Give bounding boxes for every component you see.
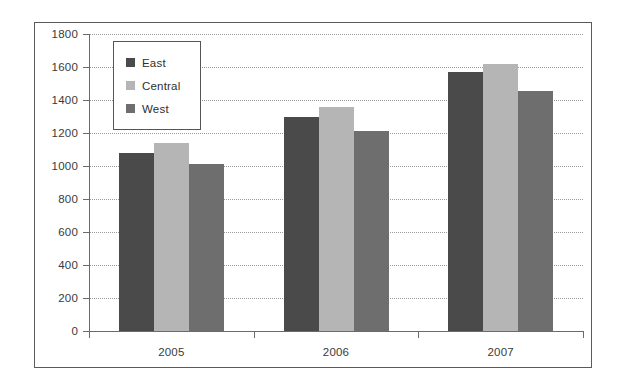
x-axis-label-2006: 2006 [276,346,396,358]
bar-east-2006[interactable] [284,117,319,332]
x-axis-tick [583,331,584,338]
bar-group-2007 [448,34,553,331]
y-axis-tick-label: 1800 [32,28,78,40]
legend-item-west[interactable]: West [126,97,200,120]
legend-item-central[interactable]: Central [126,74,200,97]
y-axis-tick-label: 600 [32,226,78,238]
x-axis-tick [418,331,419,338]
gridline [89,331,583,332]
bar-central-2006[interactable] [319,107,354,331]
legend-item-east[interactable]: East [126,51,200,74]
y-axis-tick-label: 200 [32,292,78,304]
y-axis-tick-label: 800 [32,193,78,205]
bar-east-2005[interactable] [119,153,154,331]
x-axis-tick [254,331,255,338]
bar-central-2007[interactable] [483,64,518,331]
bar-group-2006 [284,34,389,331]
y-axis-tick-label: 1000 [32,160,78,172]
x-axis-label-2005: 2005 [111,346,231,358]
legend-label-central: Central [142,80,180,92]
y-axis-tick-label: 1400 [32,94,78,106]
legend-swatch-west-icon [126,104,135,113]
bar-west-2005[interactable] [189,164,224,331]
bar-west-2007[interactable] [518,91,553,331]
x-axis-tick [89,331,90,338]
bar-central-2005[interactable] [154,143,189,331]
legend-swatch-east-icon [126,58,135,67]
legend-label-west: West [142,103,169,115]
y-axis-tick-label: 0 [32,325,78,337]
legend-swatch-central-icon [126,81,135,90]
y-axis-tick-label: 1200 [32,127,78,139]
bar-east-2007[interactable] [448,72,483,331]
y-axis-tick-label: 400 [32,259,78,271]
bar-west-2006[interactable] [354,131,389,331]
chart-frame: 180016001400120010008006004002000 200520… [34,22,592,368]
legend-label-east: East [142,57,166,69]
y-axis-tick-label: 1600 [32,61,78,73]
x-axis-label-2007: 2007 [441,346,561,358]
chart-legend: East Central West [113,41,201,130]
